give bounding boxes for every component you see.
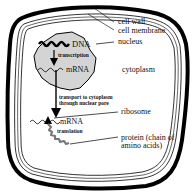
protein-chain-icon: [48, 124, 69, 144]
label-protein-line2: amino acids): [121, 142, 162, 150]
label-cytoplasm: cytoplasm: [122, 66, 155, 74]
label-mrna-cytoplasm: mRNA: [60, 118, 83, 126]
label-cell-membrane: cell membrane: [118, 27, 165, 35]
label-ribosome: ribosome: [121, 108, 151, 116]
cell-diagram: cell wall cell membrane nucleus cytoplas…: [0, 0, 196, 192]
ribosome-icon: [44, 116, 52, 124]
label-dna: DNA: [72, 40, 90, 48]
label-nucleus: nucleus: [118, 38, 142, 46]
label-cell-wall: cell wall: [118, 18, 145, 26]
label-transport-line2: through nuclear pore: [59, 100, 109, 106]
label-transcription: transcription: [58, 52, 89, 58]
label-mrna-nucleus: mRNA: [66, 66, 89, 74]
label-translation: translation: [57, 128, 83, 134]
